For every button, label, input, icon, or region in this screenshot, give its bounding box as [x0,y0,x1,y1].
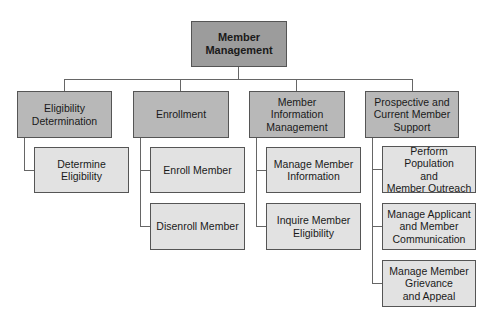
connector-to-member-info [296,79,297,91]
connector-root-down [238,66,239,79]
connector-inquire-eligibility [256,226,266,227]
connector-manage-member-info [256,170,266,171]
node-manage-member-grievance-appeal: Manage Member Grievance and Appeal [382,260,476,307]
node-enroll-member: Enroll Member [150,147,245,193]
connector-grievance-appeal [372,283,382,284]
connector-disenroll-member [140,226,150,227]
node-label: Manage Member Grievance and Appeal [389,265,468,303]
node-label: Prospective and Current Member Support [374,96,450,134]
connector-member-support-trunk [372,137,373,284]
connector-to-eligibility [64,79,65,91]
node-determine-eligibility: Determine Eligibility [34,147,129,193]
connector-member-info-trunk [256,137,257,227]
node-label: Member Information Management [252,96,342,134]
node-label: Manage Member Information [274,158,353,183]
connector-population-outreach [372,169,382,170]
node-manage-member-information: Manage Member Information [266,147,361,193]
connector-eligibility-trunk [24,137,25,170]
node-label: Eligibility Determination [32,102,97,127]
connector-to-member-support [412,79,413,91]
node-label: Enroll Member [163,164,231,177]
node-disenroll-member: Disenroll Member [150,203,245,250]
connector-enroll-member [140,170,150,171]
node-label: Enrollment [156,108,206,121]
connector-level2-bus [64,79,412,80]
connector-enrollment-trunk [140,137,141,227]
node-enrollment: Enrollment [133,91,229,138]
node-label: Perform Population and Member Outreach [385,145,473,195]
node-member-management: Member Management [191,21,287,67]
node-member-information-management: Member Information Management [249,91,345,138]
node-label: Member Management [205,31,272,57]
node-prospective-current-member-support: Prospective and Current Member Support [365,91,459,138]
node-label: Inquire Member Eligibility [277,214,351,239]
node-inquire-member-eligibility: Inquire Member Eligibility [266,203,361,250]
node-manage-applicant-member-communication: Manage Applicant and Member Communicatio… [382,203,476,250]
node-label: Determine Eligibility [37,158,126,183]
node-eligibility-determination: Eligibility Determination [17,91,112,138]
connector-to-enrollment [180,79,181,91]
connector-applicant-communication [372,226,382,227]
node-label: Disenroll Member [156,220,238,233]
connector-determine-eligibility [24,170,34,171]
node-label: Manage Applicant and Member Communicatio… [387,208,470,246]
node-perform-population-member-outreach: Perform Population and Member Outreach [382,146,476,193]
